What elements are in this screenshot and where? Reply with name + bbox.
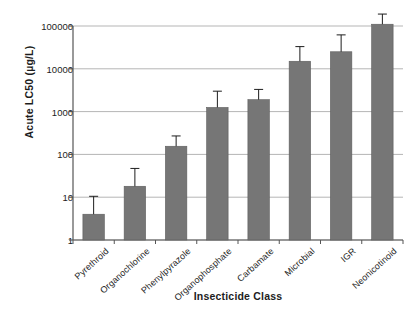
bar — [207, 107, 228, 240]
chart-figure: Acute LC50 (µg/L) Insecticide Class 1101… — [0, 0, 420, 314]
bar — [289, 61, 310, 240]
bar — [124, 186, 145, 240]
bar — [330, 52, 351, 240]
bar — [248, 100, 269, 240]
bar — [372, 24, 393, 240]
bar — [165, 146, 186, 240]
bar — [83, 214, 104, 240]
